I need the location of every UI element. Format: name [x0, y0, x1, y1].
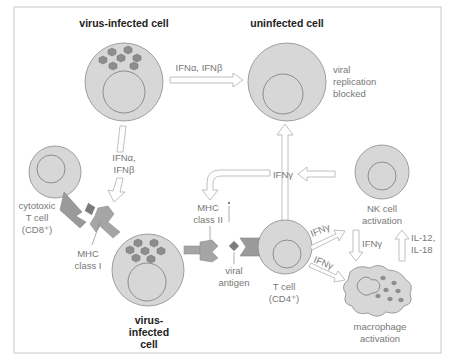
- mhc-ii-dot: [228, 202, 230, 204]
- title-virus-infected-bottom-1: virus-: [135, 314, 164, 326]
- label-t-cell-cd4: T cell: [273, 281, 296, 292]
- uninfected-cell: [248, 43, 326, 121]
- label-nk-activation: activation: [362, 215, 402, 226]
- label-ifn-beta-left: IFNβ: [114, 164, 135, 175]
- label-antigen: antigen: [218, 277, 249, 288]
- title-virus-infected-bottom-2: infected: [129, 326, 169, 338]
- note-blocked: blocked: [333, 88, 366, 99]
- label-t-cell-cd8: T cell: [26, 212, 49, 223]
- label-viral: viral: [225, 265, 242, 276]
- nk-cell: [355, 145, 409, 199]
- mhc-ii-stalk: [184, 246, 200, 254]
- label-cytotoxic: cytotoxic: [19, 200, 56, 211]
- note-viral: viral: [333, 64, 350, 75]
- label-il-18: IL-18: [411, 244, 433, 255]
- label-ifn-alpha-beta-top: IFNα, IFNβ: [176, 62, 223, 73]
- label-nk-cell: NK cell: [367, 203, 397, 214]
- virus-infected-cell-top: [85, 43, 163, 121]
- t-cell-cd4: [258, 220, 312, 274]
- label-ifn-gamma-nk-to-macrophage: IFNγ: [362, 238, 382, 249]
- label-ifn-gamma-center: IFNγ: [273, 169, 293, 180]
- label-cd8: (CD8⁺): [22, 224, 52, 235]
- label-mhc-i-line2: class I: [75, 260, 102, 271]
- title-uninfected-cell: uninfected cell: [250, 17, 324, 29]
- label-ifn-alpha-left: IFNα,: [112, 152, 135, 163]
- title-virus-infected-bottom-3: cell: [140, 338, 158, 350]
- label-mhc-ii-line1: MHC: [197, 202, 219, 213]
- label-il-12: IL-12,: [411, 232, 435, 243]
- title-virus-infected-cell: virus-infected cell: [79, 17, 168, 29]
- interferon-diagram: virus-infected cell IFNα, IFNβ uninfecte…: [0, 0, 455, 364]
- label-mhc-ii-line2: class II: [193, 214, 223, 225]
- label-macrophage-activation: activation: [360, 333, 400, 344]
- note-replication: replication: [333, 76, 376, 87]
- label-cd4: (CD4⁺): [269, 293, 299, 304]
- label-macrophage: macrophage: [354, 321, 407, 332]
- label-mhc-i-line1: MHC: [77, 248, 99, 259]
- virus-infected-cell-bottom: [112, 234, 184, 306]
